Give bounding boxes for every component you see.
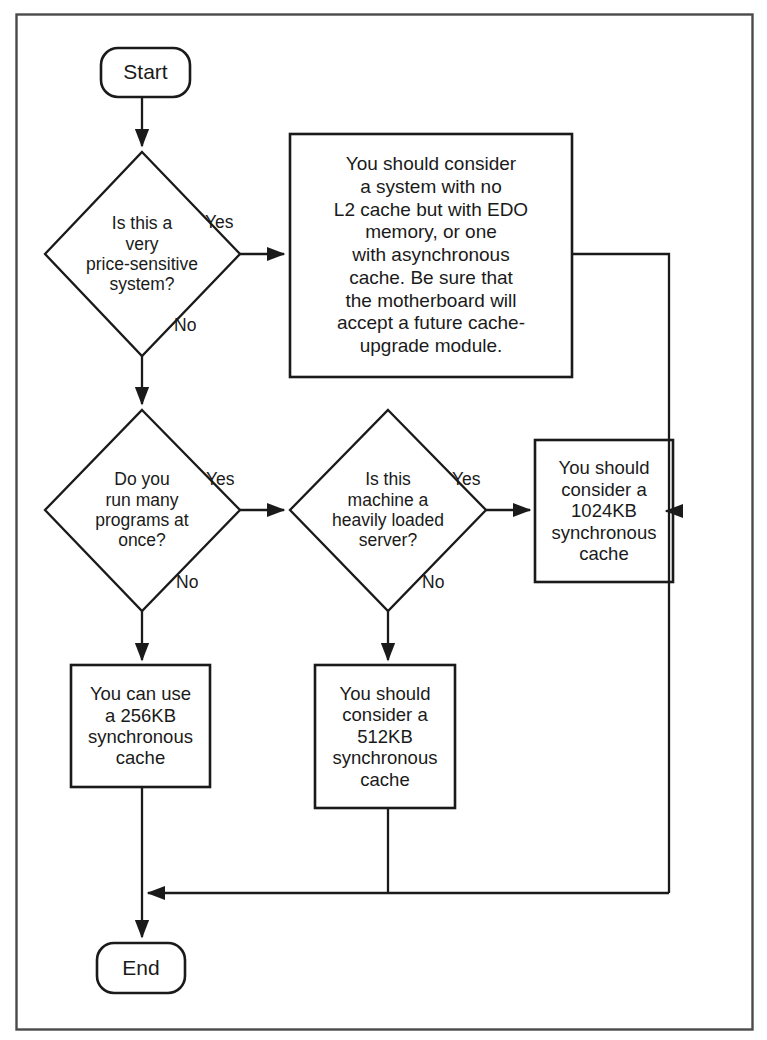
advice-512-shape (315, 665, 455, 808)
decision-server-shape (290, 410, 486, 611)
advice-1024-shape (535, 440, 673, 582)
flowchart-canvas (0, 0, 767, 1040)
flowchart-figure: Start Is this a very price-sensitive sys… (0, 0, 767, 1040)
advice-256-shape (71, 665, 210, 787)
advice-no-l2-shape (290, 134, 572, 377)
start-node-shape (101, 48, 190, 97)
end-node-shape (97, 943, 185, 993)
decision-price-shape (45, 152, 240, 356)
decision-programs-shape (45, 410, 240, 611)
